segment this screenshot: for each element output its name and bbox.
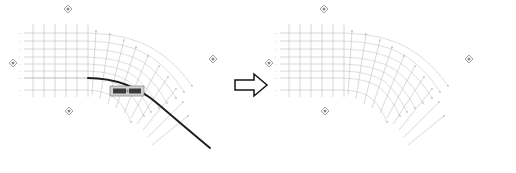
svg-text:1: 1	[19, 89, 21, 91]
radial-grid-lines-after	[348, 31, 444, 145]
svg-text:8: 8	[19, 32, 21, 34]
svg-text:4: 4	[275, 63, 277, 65]
svg-text:2: 2	[19, 77, 21, 79]
reference-marker-left[interactable]	[9, 59, 17, 67]
vertical-grid-lines-after	[289, 24, 344, 97]
horizontal-grid-lines-before	[24, 33, 88, 90]
grid-diagram-after: 8 7 6 5 4 3 2 1	[265, 0, 505, 173]
reference-marker-right[interactable]	[465, 55, 473, 63]
horizontal-grid-lines-after	[280, 33, 344, 90]
grid-diagram-before: 8 7 6 5 4 3 2 1	[0, 0, 240, 173]
tick-labels-left-before: 8 7 6 5 4 3 2 1	[19, 32, 21, 91]
panel-before[interactable]: 8 7 6 5 4 3 2 1	[0, 0, 240, 173]
panel-after[interactable]: 8 7 6 5 4 3 2 1	[265, 0, 505, 173]
svg-text:3: 3	[19, 70, 21, 72]
tick-labels-left-after: 8 7 6 5 4 3 2 1	[275, 32, 277, 91]
svg-text:5: 5	[275, 56, 277, 58]
reference-marker-bottom[interactable]	[65, 107, 73, 115]
selection-tooltip[interactable]	[110, 86, 144, 96]
svg-text:1: 1	[275, 89, 277, 91]
svg-text:5: 5	[19, 56, 21, 58]
svg-text:7: 7	[19, 40, 21, 42]
reference-marker-top[interactable]	[320, 5, 328, 13]
svg-text:6: 6	[275, 48, 277, 50]
svg-text:4: 4	[19, 63, 21, 65]
vertical-grid-lines-before	[33, 24, 88, 97]
svg-text:8: 8	[275, 32, 277, 34]
figure-root: 8 7 6 5 4 3 2 1	[0, 0, 516, 173]
reference-marker-right[interactable]	[209, 55, 217, 63]
reference-marker-top[interactable]	[64, 5, 72, 13]
selected-boundary-curve[interactable]	[88, 78, 210, 148]
reference-marker-left[interactable]	[265, 59, 273, 67]
svg-text:3: 3	[275, 70, 277, 72]
svg-text:7: 7	[275, 40, 277, 42]
svg-text:6: 6	[19, 48, 21, 50]
reference-marker-bottom[interactable]	[321, 107, 329, 115]
svg-text:2: 2	[275, 77, 277, 79]
